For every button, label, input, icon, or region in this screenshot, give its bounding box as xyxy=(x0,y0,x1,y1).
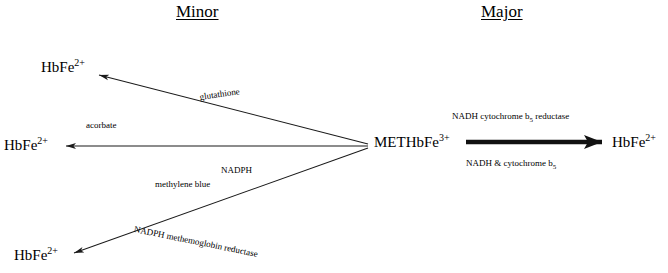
species-hbfe-nadph-text: HbFe xyxy=(14,247,47,263)
species-hbfe-nadph-product: HbFe2+ xyxy=(14,248,58,263)
species-hbfe-major-text: HbFe xyxy=(612,134,645,150)
annotation-acorbate: acorbate xyxy=(86,121,116,130)
arrow-layer xyxy=(0,0,668,273)
annotation-nadh-cytochrome-b5-reductase-post: reductase xyxy=(533,111,569,121)
annotation-nadh-and-cytochrome-b5: NADH & cytochrome b5 xyxy=(466,159,556,168)
species-hbfe-nadph-charge: 2+ xyxy=(47,245,58,256)
arrow-nadph-methemoglobin-reductase xyxy=(74,148,368,253)
annotation-methylene-blue: methylene blue xyxy=(155,180,210,189)
species-methbfe-charge: 3+ xyxy=(439,132,450,143)
species-hbfe-glutathione-product: HbFe2+ xyxy=(41,60,85,75)
annotation-nadph: NADPH xyxy=(221,166,252,175)
arrow-glutathione xyxy=(99,75,368,144)
species-hbfe-glutathione-text: HbFe xyxy=(41,59,74,75)
species-hbfe-major-product: HbFe2+ xyxy=(612,135,656,150)
species-methbfe-text: METHbFe xyxy=(374,134,439,150)
annotation-nadh-and-cytochrome-b5-pre: NADH & cytochrome b xyxy=(466,158,553,168)
species-hbfe-glutathione-charge: 2+ xyxy=(74,57,85,68)
annotation-nadh-cytochrome-b5-reductase-pre: NADH cytochrome b xyxy=(452,111,529,121)
methemoglobin-reduction-diagram: Minor Major HbFe2+ HbFe2+ HbFe2+ METHbFe… xyxy=(0,0,668,273)
annotation-nadh-and-cytochrome-b5-subscript: 5 xyxy=(553,163,557,171)
species-methbfe-substrate: METHbFe3+ xyxy=(374,135,450,150)
species-hbfe-acorbate-product: HbFe2+ xyxy=(4,138,48,153)
species-hbfe-acorbate-charge: 2+ xyxy=(37,135,48,146)
heading-minor: Minor xyxy=(176,3,219,20)
annotation-nadh-cytochrome-b5-reductase: NADH cytochrome b5 reductase xyxy=(452,112,569,121)
heading-major: Major xyxy=(481,3,523,20)
species-hbfe-acorbate-text: HbFe xyxy=(4,137,37,153)
species-hbfe-major-charge: 2+ xyxy=(645,132,656,143)
